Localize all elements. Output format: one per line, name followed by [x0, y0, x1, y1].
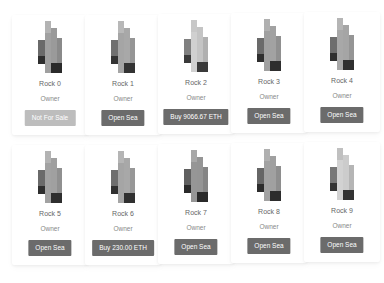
- rock-owner: Owner: [12, 95, 88, 102]
- rock-name: Rock 0: [12, 80, 88, 87]
- rock-image: [257, 19, 281, 71]
- buy-button[interactable]: Buy 9066.67 ETH: [163, 109, 228, 125]
- rock-name: Rock 5: [12, 210, 88, 217]
- rock-image: [330, 18, 354, 70]
- rock-image: [38, 151, 62, 203]
- rock-image: [184, 20, 208, 72]
- rock-card: Rock 9 Owner Open Sea: [304, 142, 380, 262]
- rock-image: [330, 148, 354, 200]
- rock-image: [184, 150, 208, 202]
- open-sea-button[interactable]: Open Sea: [320, 237, 363, 253]
- rock-name: Rock 1: [85, 80, 161, 87]
- rock-image: [111, 21, 135, 73]
- open-sea-button[interactable]: Open Sea: [247, 238, 290, 254]
- rock-image: [38, 21, 62, 73]
- rock-owner: Owner: [158, 224, 234, 231]
- rock-name: Rock 4: [304, 77, 380, 84]
- buy-button[interactable]: Buy 230.00 ETH: [92, 240, 154, 256]
- rock-name: Rock 3: [231, 78, 307, 85]
- rock-owner: Owner: [158, 94, 234, 101]
- rock-name: Rock 7: [158, 209, 234, 216]
- rock-owner: Owner: [304, 92, 380, 99]
- rock-card: Rock 4 Owner Open Sea: [304, 12, 380, 132]
- rock-grid: Rock 0 Owner Not For Sale Rock 1 Owner O…: [0, 0, 384, 283]
- rock-card: Rock 2 Owner Buy 9066.67 ETH: [158, 14, 234, 134]
- open-sea-button[interactable]: Open Sea: [320, 107, 363, 123]
- rock-owner: Owner: [12, 225, 88, 232]
- rock-name: Rock 2: [158, 79, 234, 86]
- rock-image: [257, 149, 281, 201]
- rock-card: Rock 1 Owner Open Sea: [85, 15, 161, 135]
- not-for-sale-button[interactable]: Not For Sale: [25, 110, 76, 126]
- rock-card: Rock 5 Owner Open Sea: [12, 145, 88, 265]
- rock-owner: Owner: [231, 223, 307, 230]
- rock-card: Rock 3 Owner Open Sea: [231, 13, 307, 133]
- rock-name: Rock 9: [304, 207, 380, 214]
- open-sea-button[interactable]: Open Sea: [28, 240, 71, 256]
- open-sea-button[interactable]: Open Sea: [247, 108, 290, 124]
- rock-owner: Owner: [304, 222, 380, 229]
- rock-image: [111, 151, 135, 203]
- rock-card: Rock 0 Owner Not For Sale: [12, 15, 88, 135]
- rock-owner: Owner: [85, 225, 161, 232]
- rock-owner: Owner: [231, 93, 307, 100]
- rock-card: Rock 8 Owner Open Sea: [231, 143, 307, 263]
- rock-owner: Owner: [85, 95, 161, 102]
- rock-card: Rock 7 Owner Open Sea: [158, 144, 234, 264]
- rock-card: Rock 6 Owner Buy 230.00 ETH: [85, 145, 161, 265]
- open-sea-button[interactable]: Open Sea: [101, 110, 144, 126]
- rock-name: Rock 6: [85, 210, 161, 217]
- rock-name: Rock 8: [231, 208, 307, 215]
- open-sea-button[interactable]: Open Sea: [174, 239, 217, 255]
